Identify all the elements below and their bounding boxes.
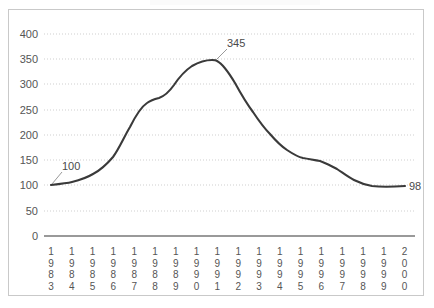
x-tick-1999: 1999 xyxy=(381,246,387,292)
y-tick-250: 250 xyxy=(20,104,38,116)
x-tick-digit: 9 xyxy=(215,269,221,280)
x-tick-digit: 9 xyxy=(69,258,75,269)
x-tick-1990: 1990 xyxy=(194,246,200,292)
x-tick-digit: 9 xyxy=(111,258,117,269)
x-tick-digit: 2 xyxy=(402,246,408,257)
x-tick-digit: 9 xyxy=(235,269,241,280)
y-tick-50: 50 xyxy=(26,205,38,217)
x-tick-digit: 1 xyxy=(194,246,200,257)
x-tick-digit: 5 xyxy=(90,281,96,292)
x-tick-digit: 1 xyxy=(277,246,283,257)
annotation-start-100: 100 xyxy=(62,160,80,172)
y-tick-350: 350 xyxy=(20,53,38,65)
x-tick-digit: 9 xyxy=(319,269,325,280)
x-tick-digit: 8 xyxy=(48,269,54,280)
x-tick-digit: 8 xyxy=(173,269,179,280)
x-tick-digit: 1 xyxy=(215,281,221,292)
x-tick-digit: 9 xyxy=(339,269,345,280)
x-tick-digit: 6 xyxy=(111,281,117,292)
x-tick-digit: 9 xyxy=(298,258,304,269)
x-tick-digit: 9 xyxy=(256,269,262,280)
annotation-end-98: 98 xyxy=(409,180,421,192)
x-tick-digit: 0 xyxy=(402,269,408,280)
x-tick-digit: 9 xyxy=(235,258,241,269)
x-tick-digit: 1 xyxy=(152,246,158,257)
x-tick-digit: 7 xyxy=(131,281,137,292)
x-tick-digit: 9 xyxy=(339,258,345,269)
x-tick-digit: 9 xyxy=(48,258,54,269)
x-tick-digit: 9 xyxy=(194,269,200,280)
x-tick-1996: 1996 xyxy=(319,246,325,292)
x-tick-digit: 9 xyxy=(131,258,137,269)
x-tick-digit: 1 xyxy=(69,246,75,257)
x-tick-digit: 9 xyxy=(277,269,283,280)
x-tick-1988: 1988 xyxy=(152,246,158,292)
x-tick-digit: 3 xyxy=(48,281,54,292)
x-tick-1991: 1991 xyxy=(215,246,221,292)
x-tick-1995: 1995 xyxy=(298,246,304,292)
x-tick-2000: 2000 xyxy=(402,246,408,292)
annotation-peak-345: 345 xyxy=(227,37,245,49)
x-tick-digit: 2 xyxy=(235,281,241,292)
x-tick-digit: 1 xyxy=(256,246,262,257)
x-tick-digit: 5 xyxy=(298,281,304,292)
y-tick-0: 0 xyxy=(32,230,38,242)
x-tick-digit: 9 xyxy=(381,281,387,292)
x-tick-digit: 9 xyxy=(360,269,366,280)
line-chart: 400 350 300 250 200 150 100 50 0 100 345… xyxy=(0,0,434,308)
x-tick-1984: 1984 xyxy=(69,246,75,292)
x-tick-digit: 4 xyxy=(277,281,283,292)
x-tick-digit: 8 xyxy=(360,281,366,292)
x-tick-digit: 9 xyxy=(381,269,387,280)
x-tick-digit: 6 xyxy=(319,281,325,292)
y-tick-200: 200 xyxy=(20,129,38,141)
x-tick-digit: 9 xyxy=(319,258,325,269)
x-tick-digit: 1 xyxy=(131,246,137,257)
x-tick-digit: 8 xyxy=(90,269,96,280)
x-tick-digit: 8 xyxy=(152,281,158,292)
series-line-index xyxy=(51,60,405,187)
x-tick-digit: 4 xyxy=(69,281,75,292)
x-tick-digit: 9 xyxy=(256,258,262,269)
x-tick-digit: 1 xyxy=(48,246,54,257)
x-tick-digit: 9 xyxy=(360,258,366,269)
x-tick-digit: 1 xyxy=(235,246,241,257)
x-tick-digit: 0 xyxy=(402,258,408,269)
x-tick-digit: 1 xyxy=(90,246,96,257)
x-tick-1993: 1993 xyxy=(256,246,262,292)
x-tick-digit: 9 xyxy=(381,258,387,269)
x-tick-digit: 8 xyxy=(111,269,117,280)
x-tick-digit: 1 xyxy=(381,246,387,257)
x-tick-1983: 1983 xyxy=(48,246,54,292)
x-tick-digit: 9 xyxy=(298,269,304,280)
x-tick-digit: 1 xyxy=(319,246,325,257)
x-tick-digit: 8 xyxy=(131,269,137,280)
leader-line-peak xyxy=(216,49,227,60)
x-tick-digit: 9 xyxy=(194,258,200,269)
x-tick-digit: 1 xyxy=(298,246,304,257)
y-tick-100: 100 xyxy=(20,179,38,191)
leader-line-start xyxy=(52,172,62,184)
x-tick-1998: 1998 xyxy=(360,246,366,292)
x-tick-digit: 1 xyxy=(339,246,345,257)
gridlines xyxy=(44,34,415,211)
x-tick-1997: 1997 xyxy=(339,246,345,292)
x-tick-1986: 1986 xyxy=(111,246,117,292)
x-tick-1992: 1992 xyxy=(235,246,241,292)
x-tick-digit: 9 xyxy=(173,281,179,292)
x-tick-digit: 9 xyxy=(277,258,283,269)
x-tick-digit: 9 xyxy=(173,258,179,269)
x-tick-digit: 9 xyxy=(152,258,158,269)
x-tick-1985: 1985 xyxy=(90,246,96,292)
x-axis-labels: 1983198419851986198719881989199019911992… xyxy=(48,246,408,292)
x-tick-digit: 8 xyxy=(152,269,158,280)
x-tick-digit: 9 xyxy=(90,258,96,269)
x-tick-digit: 3 xyxy=(256,281,262,292)
y-tick-150: 150 xyxy=(20,154,38,166)
x-tick-1989: 1989 xyxy=(173,246,179,292)
x-tick-digit: 1 xyxy=(360,246,366,257)
x-tick-1994: 1994 xyxy=(277,246,283,292)
y-axis-labels: 400 350 300 250 200 150 100 50 0 xyxy=(20,28,38,242)
x-tick-digit: 0 xyxy=(402,281,408,292)
x-tick-digit: 1 xyxy=(215,246,221,257)
